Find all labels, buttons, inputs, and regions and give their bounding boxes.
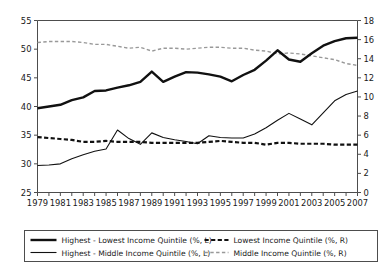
x-axis-tick-label: 1983 [73, 198, 94, 208]
right-axis-tick-label: 16 [364, 35, 375, 45]
x-axis-tick-label: 1989 [141, 198, 162, 208]
chart-legend: Highest - Lowest Income Quintile (%, L)H… [25, 231, 378, 262]
right-axis-tick-label: 8 [364, 111, 369, 121]
left-axis-tick-label: 30 [21, 159, 32, 169]
left-axis-tick-label: 40 [21, 102, 32, 112]
x-axis-tick-label: 1997 [233, 198, 254, 208]
legend-entry-label: Highest - Lowest Income Quintile (%, L) [62, 236, 212, 245]
right-axis-tick-label: 12 [364, 73, 375, 83]
x-axis-tick-label: 1981 [50, 198, 71, 208]
x-axis-tick-label: 1999 [255, 198, 276, 208]
legend-entry-label: Highest - Middle Income Quintile (%, L) [62, 249, 211, 258]
x-axis-tick-label: 2005 [324, 198, 345, 208]
right-axis-tick-label: 10 [364, 92, 375, 102]
x-axis-tick-label: 2001 [278, 198, 299, 208]
left-axis-tick-labels: 25303540455055 [21, 16, 32, 198]
chart-series [38, 38, 358, 166]
plot-frame [38, 21, 358, 193]
legend-entry-label: Lowest Income Quintile (%, R) [234, 236, 349, 245]
right-axis-tick-label: 14 [364, 54, 375, 64]
x-axis-tick-label: 1995 [210, 198, 231, 208]
x-axis-tick-label: 1991 [164, 198, 185, 208]
x-axis-tick-labels: 1979198119831985198719891991199319951997… [27, 198, 368, 208]
left-axis-tick-label: 25 [21, 188, 32, 198]
right-axis-tick-label: 18 [364, 16, 375, 26]
x-axis-tick-label: 1985 [95, 198, 116, 208]
left-axis-tick-label: 50 [21, 44, 32, 54]
right-axis-tick-label: 0 [364, 188, 369, 198]
x-axis-tick-label: 1993 [187, 198, 208, 208]
x-axis-tick-label: 2003 [301, 198, 322, 208]
right-axis-tick-label: 6 [364, 130, 369, 140]
left-axis-tick-label: 45 [21, 73, 32, 83]
legend-entry-label: Middle Income Quintile (%, R) [234, 249, 347, 258]
series-line [38, 38, 358, 109]
series-line [38, 91, 358, 166]
right-axis-tick-label: 4 [364, 149, 369, 159]
line-chart: 25303540455055 024681012141618 197919811… [0, 0, 391, 269]
left-axis-tick-label: 35 [21, 130, 32, 140]
chart-container: 25303540455055 024681012141618 197919811… [0, 0, 391, 269]
right-axis-tick-labels: 024681012141618 [364, 16, 375, 198]
left-axis-tick-label: 55 [21, 16, 32, 26]
x-axis-tick-label: 1979 [27, 198, 48, 208]
right-axis-tick-label: 2 [364, 168, 369, 178]
x-axis-tick-label: 1987 [118, 198, 139, 208]
chart-axes [34, 21, 361, 197]
x-axis-tick-label: 2007 [347, 198, 368, 208]
